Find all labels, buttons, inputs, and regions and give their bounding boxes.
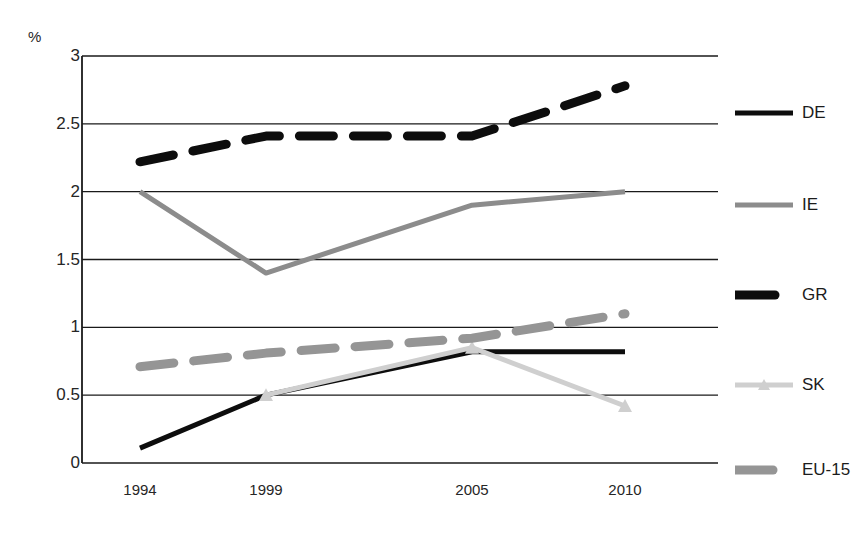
legend-item-EU-15[interactable]: EU-15 (735, 459, 850, 481)
legend-swatch-GR-icon (735, 287, 793, 303)
legend-item-IE[interactable]: IE (735, 194, 818, 216)
legend-label-SK: SK (802, 375, 825, 395)
x-axis-tick-2010: 2010 (608, 481, 641, 498)
legend-label-DE: DE (802, 103, 826, 123)
x-axis-tick-1999: 1999 (249, 481, 282, 498)
legend-label-IE: IE (802, 195, 818, 215)
legend-item-GR[interactable]: GR (735, 284, 828, 306)
legend-label-EU-15: EU-15 (802, 460, 850, 480)
x-axis-tick-1994: 1994 (123, 481, 156, 498)
legend-swatch-IE-icon (735, 197, 793, 213)
series-line-EU-15 (140, 314, 625, 367)
chart-container: % 00.511.522.53 1994199920052010 DEIEGRS… (0, 0, 866, 533)
legend-swatch-EU-15-icon (735, 462, 793, 478)
legend-swatch-DE-icon (735, 105, 793, 121)
series-line-IE (140, 192, 625, 273)
legend-label-GR: GR (802, 285, 828, 305)
legend-item-SK[interactable]: SK (735, 374, 825, 396)
legend-item-DE[interactable]: DE (735, 102, 826, 124)
legend-swatch-SK-icon (735, 377, 793, 393)
plot-area (0, 0, 866, 533)
x-axis-tick-2005: 2005 (455, 481, 488, 498)
